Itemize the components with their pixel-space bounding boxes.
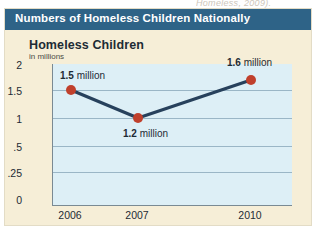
data-point-2010 <box>246 75 256 85</box>
data-label-2006-value: 1.5 <box>60 70 74 81</box>
y-tick-label-0-5: .5 <box>0 141 22 153</box>
x-tick-label-2006: 2006 <box>40 209 100 221</box>
data-label-2010: 1.6 million <box>227 57 272 68</box>
data-label-2006: 1.5 million <box>60 70 105 81</box>
data-point-2007 <box>133 113 143 123</box>
chart-header-title: Numbers of Homeless Children Nationally <box>15 12 250 24</box>
y-tick-label-0-25: .25 <box>0 167 22 179</box>
x-tick-label-2007: 2007 <box>107 209 167 221</box>
data-label-2006-unit: million <box>77 70 105 81</box>
plot-area <box>52 64 292 206</box>
data-label-2010-value: 1.6 <box>227 57 241 68</box>
x-tick-label-2010: 2010 <box>220 209 280 221</box>
y-tick-label-1: 1 <box>0 113 22 125</box>
chart-title: Homeless Children <box>29 38 144 52</box>
data-point-2006 <box>66 85 76 95</box>
data-label-2007-unit: million <box>140 128 168 139</box>
chart-card: Numbers of Homeless Children Nationally … <box>5 9 311 225</box>
chart-subtitle: in millions <box>29 52 64 61</box>
y-tick-label-1-5: 1.5 <box>0 85 22 97</box>
data-label-2007-value: 1.2 <box>123 128 137 139</box>
source-text-fragment: Homeless, 2009). <box>196 0 316 8</box>
data-label-2007: 1.2 million <box>123 128 168 139</box>
y-tick-label-0: 0 <box>0 194 22 206</box>
chart-header-bar: Numbers of Homeless Children Nationally <box>5 9 311 30</box>
data-series-line <box>53 64 293 206</box>
chart-figure: Homeless, 2009). Numbers of Homeless Chi… <box>0 0 321 231</box>
data-label-2010-unit: million <box>244 57 272 68</box>
y-tick-label-2: 2 <box>0 59 22 71</box>
